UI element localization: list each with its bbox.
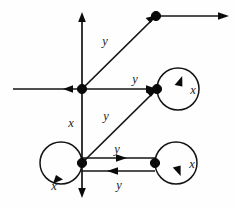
label-x-vertical: x: [67, 116, 74, 130]
graph-canvas: y y y y y x x x x: [0, 0, 237, 207]
label-x-loop-bottomleft: x: [50, 179, 57, 193]
origin-node: [77, 84, 86, 93]
self-loop-bottomleft-circle: [40, 142, 82, 184]
label-y-middle-horizontal: y: [130, 72, 138, 86]
label-y-lower-diagonal: y: [101, 109, 109, 123]
middle-right-node: [152, 84, 161, 93]
edge-bottomright-to-bottomleft-arrow-icon: [107, 167, 118, 174]
label-x-loop-bottomright: x: [188, 157, 195, 171]
edge-topright-outgoing-arrow-icon: [218, 12, 229, 20]
self-loop-bottomright-arrow-icon: [173, 165, 181, 176]
horizontal-axis-left-arrow-icon: [63, 85, 73, 92]
vertical-axis-up-arrow-icon: [78, 12, 86, 22]
vertical-axis-down-arrow-icon: [78, 188, 86, 198]
label-y-upper-diagonal: y: [100, 34, 108, 48]
self-loop-middleright-arrow-icon: [175, 76, 183, 87]
bottom-right-node: [150, 158, 159, 167]
axes-group: [13, 12, 86, 198]
edge-origin-to-topright-line: [82, 20, 152, 89]
graph-diagram: y y y y y x x x x: [0, 0, 237, 207]
label-y-bottom-lower-edge: y: [114, 178, 122, 192]
label-y-bottom-upper-edge: y: [112, 142, 120, 156]
bottom-left-node: [77, 158, 86, 167]
label-x-loop-middleright: x: [189, 83, 196, 97]
top-right-node: [151, 11, 160, 20]
